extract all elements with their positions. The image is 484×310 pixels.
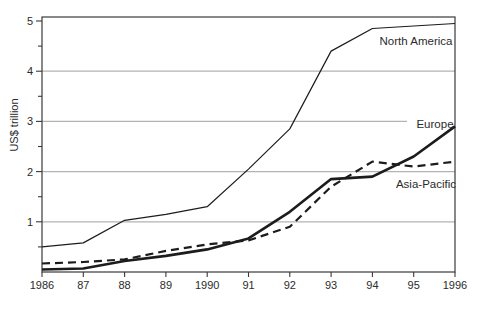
- chart-figure: 123451986878889199091929394951996US$ tri…: [0, 0, 484, 310]
- x-tick-label: 1996: [443, 279, 467, 291]
- series-label-europe: Europe: [416, 118, 453, 130]
- series-line-north-america: [42, 24, 455, 247]
- x-tick-label: 88: [118, 279, 130, 291]
- plot-frame: [42, 17, 455, 272]
- x-tick-label: 1990: [195, 279, 219, 291]
- x-tick-label: 1986: [30, 279, 54, 291]
- y-tick-label: 5: [27, 15, 33, 27]
- y-tick-label: 4: [27, 65, 33, 77]
- y-tick-label: 2: [27, 166, 33, 178]
- y-axis-title: US$ trillion: [8, 98, 20, 151]
- x-tick-label: 91: [242, 279, 254, 291]
- y-tick-label: 1: [27, 216, 33, 228]
- x-tick-label: 95: [408, 279, 420, 291]
- x-tick-label: 89: [160, 279, 172, 291]
- x-tick-label: 94: [366, 279, 378, 291]
- series-line-europe: [42, 126, 455, 269]
- y-tick-label: 3: [27, 115, 33, 127]
- x-tick-label: 92: [284, 279, 296, 291]
- x-tick-label: 87: [77, 279, 89, 291]
- series-label-asia-pacific: Asia-Pacific: [396, 178, 456, 190]
- series-line-asia-pacific: [42, 162, 455, 264]
- line-chart: 123451986878889199091929394951996US$ tri…: [0, 0, 484, 310]
- x-tick-label: 93: [325, 279, 337, 291]
- series-label-north-america: North America: [380, 35, 453, 47]
